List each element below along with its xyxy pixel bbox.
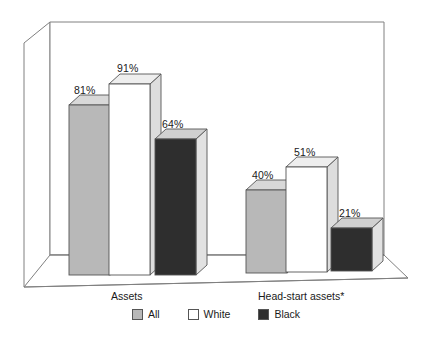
chart-legend: All White Black	[0, 308, 432, 320]
value-label-assets-black: 64%	[162, 118, 184, 130]
chart-canvas	[0, 0, 432, 344]
bar-front-face	[69, 105, 110, 275]
bar-headstart-black	[331, 218, 383, 271]
value-label-assets-all: 81%	[74, 84, 96, 96]
category-label-headstart: Head-start assets*	[258, 290, 344, 302]
legend-item-white[interactable]: White	[188, 308, 231, 320]
bar-chart-figure: 81% 91% 64% 40% 51% 21% Assets Head-star…	[0, 0, 432, 344]
legend-item-all[interactable]: All	[132, 308, 160, 320]
legend-label-black: Black	[274, 308, 300, 320]
bar-side-face	[196, 129, 207, 275]
value-label-headstart-all: 40%	[252, 169, 274, 181]
value-label-headstart-black: 21%	[339, 207, 361, 219]
gray-swatch-icon	[132, 309, 143, 320]
category-label-assets: Assets	[111, 290, 143, 302]
bar-front-face	[331, 228, 372, 271]
black-swatch-icon	[258, 309, 269, 320]
value-label-assets-white: 91%	[117, 62, 139, 74]
bar-front-face	[286, 167, 327, 272]
bar-front-face	[246, 190, 287, 273]
legend-item-black[interactable]: Black	[258, 308, 300, 320]
bar-front-face	[155, 139, 196, 275]
bar-front-face	[109, 84, 150, 275]
bar-assets-white	[109, 74, 161, 275]
legend-label-white: White	[204, 308, 231, 320]
legend-label-all: All	[148, 308, 160, 320]
bar-assets-black	[155, 129, 207, 275]
bar-headstart-white	[286, 157, 338, 272]
value-label-headstart-white: 51%	[294, 146, 316, 158]
white-swatch-icon	[188, 309, 199, 320]
left-wall-panel	[24, 22, 50, 287]
